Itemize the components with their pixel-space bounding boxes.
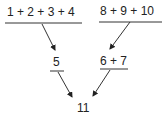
expression-left-top: 1 + 2 + 3 + 4 [7, 5, 75, 19]
expression-left-mid: 5 [53, 55, 60, 69]
expression-right-top: 8 + 9 + 10 [100, 4, 154, 18]
expression-result: 11 [77, 101, 89, 115]
expression-right-mid: 6 + 7 [100, 54, 127, 68]
arrow-left-mid [58, 72, 72, 97]
arrow-right-top [110, 22, 130, 49]
arrow-left-top [42, 24, 55, 50]
arrow-right-mid [93, 70, 110, 96]
